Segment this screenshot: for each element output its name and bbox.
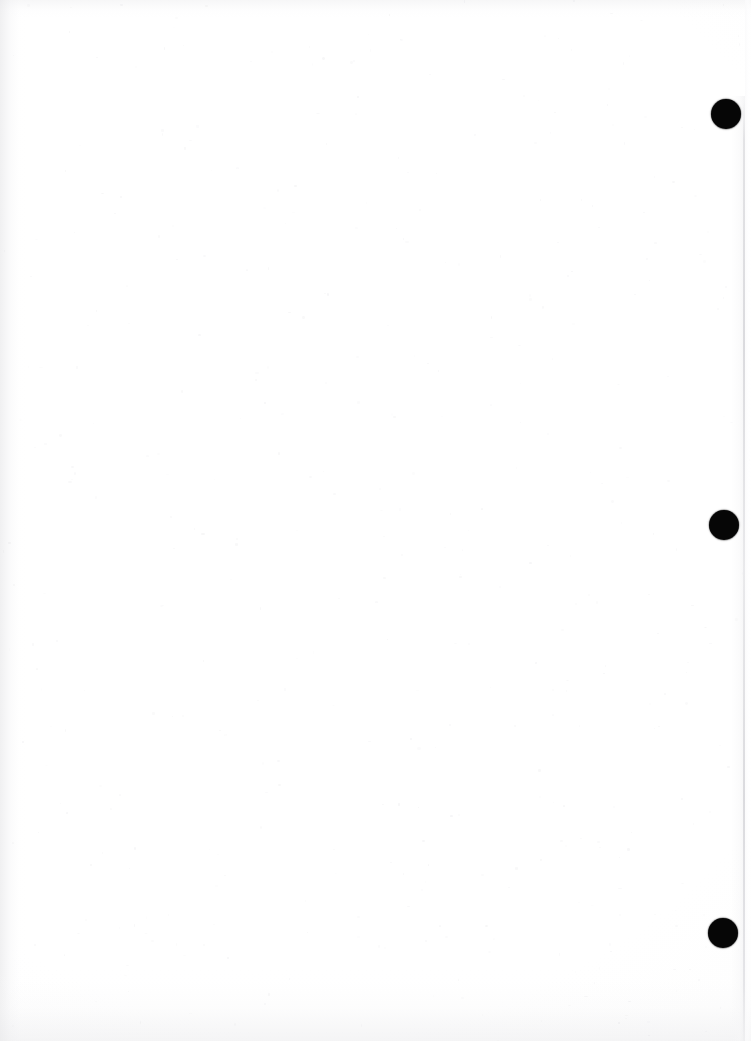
middle-hole — [709, 510, 739, 540]
paper-surface — [0, 0, 751, 1041]
scanned-page — [0, 0, 751, 1041]
bottom-hole — [708, 918, 738, 948]
top-hole — [711, 99, 741, 129]
